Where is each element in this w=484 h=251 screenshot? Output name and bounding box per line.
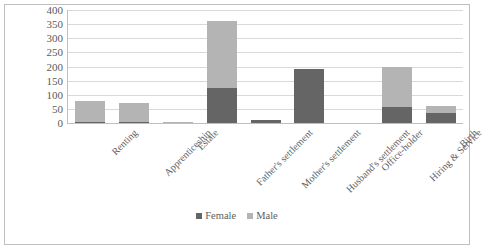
bar-segment-male[interactable]	[163, 122, 193, 124]
chart-frame: 400350300250200150100500 RentingApprenti…	[4, 4, 470, 245]
bar-group[interactable]	[75, 101, 105, 123]
bar-group[interactable]	[251, 120, 281, 123]
legend-label: Female	[205, 210, 236, 221]
y-axis-tick-label: 350	[21, 19, 63, 30]
x-axis-tick-labels: RentingApprenticeshipEstateFather's sett…	[68, 125, 463, 205]
y-axis-tick-label: 300	[21, 33, 63, 44]
bar-segment-male[interactable]	[75, 101, 105, 121]
y-axis-tick-label: 0	[21, 118, 63, 129]
bar-group[interactable]	[382, 67, 412, 123]
bar-segment-female[interactable]	[119, 122, 149, 124]
bar-segment-female[interactable]	[75, 122, 105, 124]
bar-group[interactable]	[294, 69, 324, 123]
y-axis-tick-label: 400	[21, 5, 63, 16]
plot-area	[68, 10, 463, 123]
y-axis-tick-label: 250	[21, 47, 63, 58]
bar-segment-male[interactable]	[382, 67, 412, 107]
bar-segment-female[interactable]	[382, 107, 412, 123]
bar-segment-male[interactable]	[119, 103, 149, 122]
legend-swatch-icon	[247, 213, 253, 219]
bar-segment-female[interactable]	[294, 69, 324, 123]
x-axis-tick-label: Estate	[195, 127, 220, 152]
chart-legend: FemaleMale	[5, 210, 469, 221]
y-axis-tick-label: 50	[21, 104, 63, 115]
bar-group[interactable]	[163, 122, 193, 124]
y-axis-tick-labels: 400350300250200150100500	[19, 10, 63, 123]
bar-group[interactable]	[207, 21, 237, 123]
bar-series-container	[68, 10, 463, 123]
bar-segment-female[interactable]	[251, 120, 281, 123]
x-axis-tick-label: Renting	[109, 127, 139, 157]
bar-segment-male[interactable]	[426, 106, 456, 113]
legend-label: Male	[256, 210, 278, 221]
legend-item[interactable]: Female	[196, 210, 236, 221]
y-axis-tick-label: 100	[21, 90, 63, 101]
bar-segment-female[interactable]	[426, 113, 456, 123]
y-axis-tick-label: 150	[21, 76, 63, 87]
legend-item[interactable]: Male	[247, 210, 278, 221]
bar-segment-male[interactable]	[207, 21, 237, 88]
y-axis-tick-label: 200	[21, 62, 63, 73]
bar-segment-female[interactable]	[207, 88, 237, 123]
bar-group[interactable]	[119, 103, 149, 123]
legend-swatch-icon	[196, 213, 202, 219]
gridline	[68, 123, 463, 124]
bar-group[interactable]	[426, 106, 456, 124]
